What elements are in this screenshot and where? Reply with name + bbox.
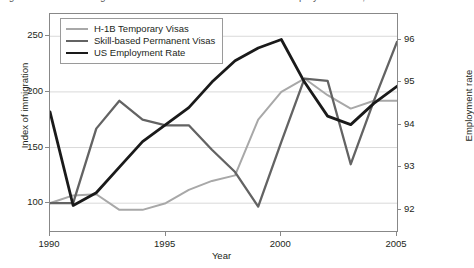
legend-item-employment: US Employment Rate <box>66 47 215 59</box>
chart-legend: H-1B Temporary Visas Skill-based Permane… <box>60 18 223 64</box>
x-axis-label: Year <box>0 250 443 261</box>
y-axis-tick-mark <box>45 147 49 148</box>
legend-swatch-employment <box>66 52 88 54</box>
y-axis-tick-mark <box>45 35 49 36</box>
y2-axis-tick-mark <box>397 39 401 40</box>
legend-label-h1b: H-1B Temporary Visas <box>94 23 189 35</box>
legend-swatch-permanent <box>66 40 88 42</box>
x-axis-tick-label: 2005 <box>376 239 416 249</box>
x-axis-tick-label: 1995 <box>145 239 185 249</box>
y-axis-tick-mark <box>45 202 49 203</box>
y2-axis-tick-label: 92 <box>404 204 434 214</box>
series-line <box>50 42 397 207</box>
legend-swatch-h1b <box>66 28 88 30</box>
legend-label-permanent: Skill-based Permanent Visas <box>94 35 215 47</box>
legend-item-permanent: Skill-based Permanent Visas <box>66 35 215 47</box>
series-lines <box>50 40 397 210</box>
y-axis-label: Index of immigration <box>19 36 30 176</box>
x-axis-tick-mark <box>280 232 281 236</box>
y2-axis-label: Employment rate <box>463 36 474 176</box>
y2-axis-tick-label: 94 <box>404 119 434 129</box>
y2-axis-tick-label: 93 <box>404 161 434 171</box>
y2-axis-tick-label: 95 <box>404 76 434 86</box>
x-axis-tick-mark <box>165 232 166 236</box>
x-axis-tick-mark <box>396 232 397 236</box>
y2-axis-tick-mark <box>397 209 401 210</box>
legend-item-h1b: H-1B Temporary Visas <box>66 23 215 35</box>
y2-axis-tick-mark <box>397 124 401 125</box>
x-axis-tick-mark <box>49 232 50 236</box>
y2-axis-tick-mark <box>397 166 401 167</box>
y-axis-tick-label: 100 <box>13 197 43 207</box>
y2-axis-tick-mark <box>397 81 401 82</box>
figure-title: Figure 3: Skilled immigration to the Uni… <box>0 0 443 3</box>
y-axis-tick-mark <box>45 91 49 92</box>
x-axis-tick-label: 1990 <box>29 239 69 249</box>
x-axis-tick-label: 2000 <box>260 239 300 249</box>
legend-label-employment: US Employment Rate <box>94 47 185 59</box>
y2-axis-tick-label: 96 <box>404 34 434 44</box>
